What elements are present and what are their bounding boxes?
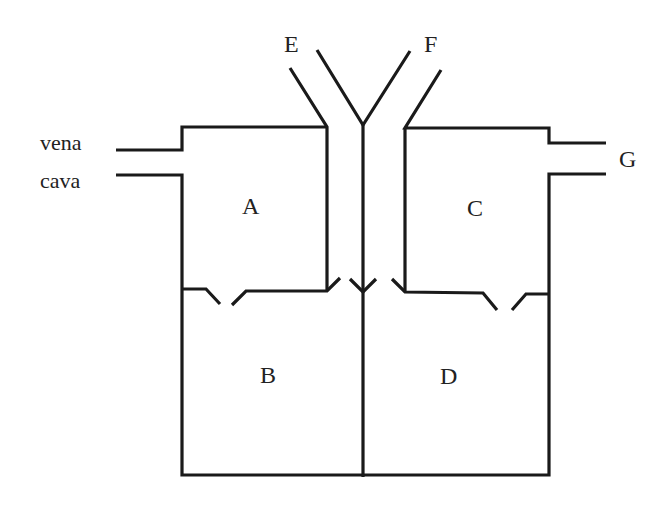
label-e: E: [284, 31, 299, 57]
label-f: F: [424, 31, 437, 57]
right-av-valve-flap-2: [512, 294, 549, 310]
label-chamber-b: B: [260, 362, 276, 388]
vena-cava-lower-wall: [116, 174, 606, 475]
label-chamber-d: D: [440, 363, 457, 389]
vessel-f-outer-wall: [405, 70, 606, 143]
label-vena: vena: [40, 130, 82, 155]
label-cava: cava: [40, 168, 81, 193]
left-av-valve-flap-2: [232, 278, 340, 305]
vessel-ef-septum: [317, 50, 410, 125]
vessel-e-outer-wall: [290, 68, 327, 291]
label-chamber-c: C: [467, 195, 483, 221]
label-chamber-a: A: [242, 193, 260, 219]
vena-cava-upper-wall: [116, 127, 327, 150]
left-av-valve-flap-1: [182, 289, 220, 304]
label-g: G: [619, 146, 636, 172]
right-av-valve-flap-1: [392, 279, 497, 310]
heart-diagram: vena cava E F G A C B D: [0, 0, 670, 510]
